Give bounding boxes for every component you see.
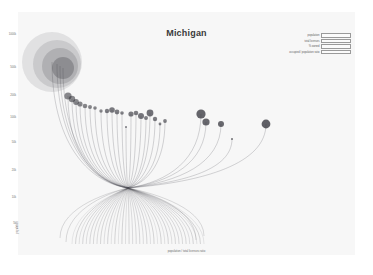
legend: populationtotal licenses% ownedoccupied … (289, 33, 351, 55)
y-axis-tick-label: 100k (2, 116, 16, 119)
x-axis-label: population / total licenses ratio (0, 249, 373, 253)
y-axis-tick-label: 200k (2, 94, 16, 97)
legend-swatch (321, 44, 351, 48)
y-axis-tick-label: 500k (2, 66, 16, 69)
legend-item-label: population (308, 33, 321, 38)
legend-item-label: total licenses (305, 39, 322, 44)
y-axis-label: population (16, 208, 19, 248)
legend-swatch (321, 39, 351, 43)
y-axis-tick-label: 5k (2, 222, 16, 225)
legend-item-label: occupied / population ratio (289, 50, 321, 55)
chart-figure: Michigan populationtotal licenses% owned… (0, 0, 373, 275)
legend-swatch (321, 50, 351, 54)
y-axis-tick-label: 1000k (2, 33, 16, 36)
y-axis-tick-label: 10k (2, 196, 16, 199)
legend-item: occupied / population ratio (289, 50, 351, 55)
y-axis-tick-label: 20k (2, 169, 16, 172)
legend-swatch (321, 33, 351, 37)
y-axis-tick-label: 50k (2, 141, 16, 144)
legend-item-label: % owned (309, 44, 321, 49)
legend-item: total licenses (289, 39, 351, 44)
legend-item: population (289, 33, 351, 38)
legend-item: % owned (289, 44, 351, 49)
